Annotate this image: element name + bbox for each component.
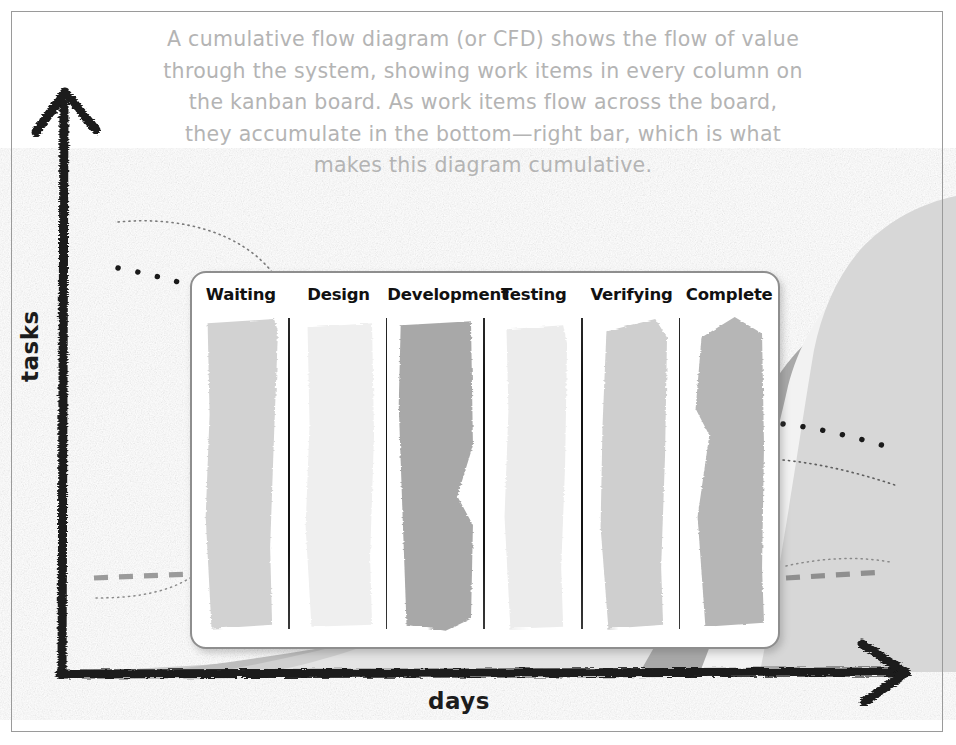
column-bar-complete	[680, 313, 778, 639]
column-header-testing: Testing	[485, 285, 583, 304]
cfd-illustration: A cumulative flow diagram (or CFD) shows…	[0, 0, 956, 745]
column-bar-testing	[485, 313, 583, 639]
board-columns: Waiting Design Development	[192, 273, 778, 647]
x-axis-line	[60, 672, 900, 674]
fine-dotted-upper-line	[118, 221, 272, 272]
y-axis-label: tasks	[17, 310, 43, 382]
dashed-gray-left-line	[94, 574, 190, 578]
x-axis-label: days	[428, 688, 490, 714]
board-column-waiting[interactable]: Waiting	[192, 273, 290, 647]
board-column-complete[interactable]: Complete	[680, 273, 778, 647]
column-header-complete: Complete	[680, 285, 778, 304]
column-bar-verifying	[583, 313, 681, 639]
annotation-text: A cumulative flow diagram (or CFD) shows…	[108, 24, 858, 182]
fine-dotted-bottomleft-line	[96, 578, 190, 598]
column-header-development: Development	[387, 285, 485, 304]
column-header-waiting: Waiting	[192, 285, 290, 304]
board-column-design[interactable]: Design	[290, 273, 388, 647]
column-bar-development	[387, 313, 485, 639]
kanban-board-card: Waiting Design Development	[190, 271, 780, 649]
y-axis-line	[62, 104, 64, 672]
column-header-design: Design	[290, 285, 388, 304]
board-column-development[interactable]: Development	[387, 273, 485, 647]
board-column-verifying[interactable]: Verifying	[583, 273, 681, 647]
board-column-testing[interactable]: Testing	[485, 273, 583, 647]
column-bar-waiting	[192, 313, 290, 639]
column-header-verifying: Verifying	[583, 285, 681, 304]
column-bar-design	[290, 313, 388, 639]
